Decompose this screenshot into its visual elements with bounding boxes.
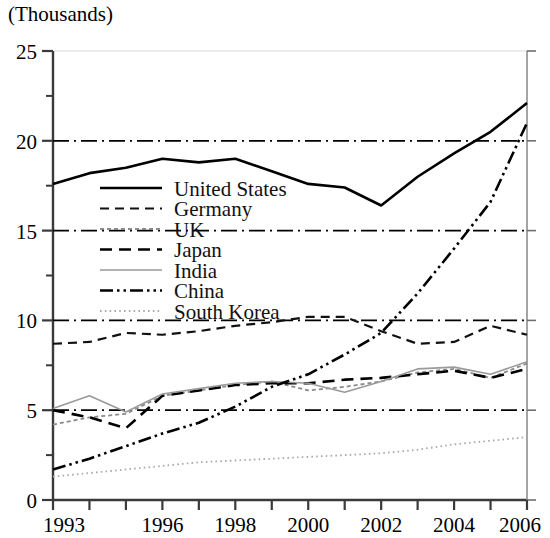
x-tick-label: 2004 [433, 513, 476, 537]
x-tick-label: 2000 [287, 513, 329, 537]
series-line-japan [53, 369, 527, 428]
y-tick-label: 20 [16, 130, 37, 154]
series-line-uk [53, 364, 527, 425]
series-line-india [53, 362, 527, 412]
y-tick-label: 15 [16, 220, 37, 244]
x-axis-tick-labels: 1993199619982000200220042006 [43, 513, 541, 537]
legend-label: South Korea [174, 300, 280, 324]
x-tick-label: 1996 [141, 513, 183, 537]
y-tick-label: 0 [27, 489, 38, 513]
chart-legend: United StatesGermanyUKJapanIndiaChinaSou… [100, 177, 287, 324]
chart-axes [42, 51, 536, 510]
x-tick-label: 1993 [43, 513, 85, 537]
series-line-south-korea [53, 437, 527, 477]
y-tick-label: 5 [27, 399, 38, 423]
x-tick-label: 2006 [499, 513, 541, 537]
legend-item: South Korea [100, 300, 280, 324]
y-tick-label: 10 [16, 309, 37, 333]
x-tick-label: 1998 [214, 513, 256, 537]
chart-container: (Thousands) 0510152025 19931996199820002… [0, 0, 550, 538]
series-line-united-states [53, 103, 527, 205]
x-tick-label: 2002 [360, 513, 402, 537]
series-line-china [53, 123, 527, 470]
y-axis-tick-labels: 0510152025 [16, 40, 37, 513]
line-chart-plot: 0510152025 1993199619982000200220042006 … [0, 0, 550, 538]
y-tick-label: 25 [16, 40, 37, 64]
